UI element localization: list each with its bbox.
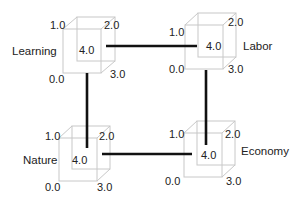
learning-center-value: 4.0 bbox=[79, 44, 94, 56]
learning-label: Learning bbox=[12, 45, 57, 57]
nature-label: Nature bbox=[23, 154, 58, 166]
labor-corner-top-right: 2.0 bbox=[228, 16, 243, 28]
learning-corner-top-left: 1.0 bbox=[50, 19, 65, 31]
nature-corner-top-left: 1.0 bbox=[45, 130, 60, 142]
economy-corner-top-left: 1.0 bbox=[169, 128, 184, 140]
learning-corner-top-right: 2.0 bbox=[104, 19, 119, 31]
diagram-canvas: 1.0 2.0 3.0 0.0 4.0 Learning 1.0 2.0 3.0… bbox=[0, 0, 303, 203]
nature-corner-bottom-right: 3.0 bbox=[97, 181, 112, 193]
economy-center-value: 4.0 bbox=[201, 149, 216, 161]
nature-center-value: 4.0 bbox=[72, 154, 87, 166]
nature-corner-bottom-left: 0.0 bbox=[45, 181, 60, 193]
economy-corner-bottom-left: 0.0 bbox=[165, 175, 180, 187]
cube-learning: 1.0 2.0 3.0 0.0 4.0 Learning bbox=[12, 17, 125, 85]
labor-corner-bottom-right: 3.0 bbox=[228, 63, 243, 75]
economy-corner-bottom-right: 3.0 bbox=[226, 175, 241, 187]
nature-corner-top-right: 2.0 bbox=[99, 130, 114, 142]
economy-corner-top-right: 2.0 bbox=[225, 128, 240, 140]
learning-corner-bottom-left: 0.0 bbox=[49, 73, 64, 85]
cube-labor: 1.0 2.0 3.0 0.0 4.0 Labor bbox=[169, 13, 273, 75]
labor-corner-bottom-left: 0.0 bbox=[169, 63, 184, 75]
cube-nature: 1.0 2.0 3.0 0.0 4.0 Nature bbox=[23, 126, 114, 193]
labor-center-value: 4.0 bbox=[206, 40, 221, 52]
labor-label: Labor bbox=[243, 40, 273, 52]
learning-corner-bottom-right: 3.0 bbox=[110, 68, 125, 80]
labor-corner-top-left: 1.0 bbox=[169, 26, 184, 38]
economy-label: Economy bbox=[241, 145, 289, 157]
